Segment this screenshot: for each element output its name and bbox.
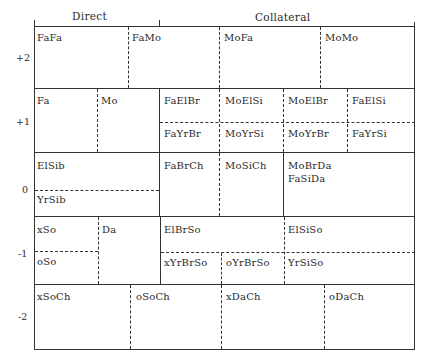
direct-collateral-tick [159,20,160,27]
kin-term-moelbr: MoElBr [288,95,328,107]
divider-dashed [221,285,222,349]
kin-term-odach: oDaCh [329,291,364,303]
frame-bottom-border [34,349,415,350]
divider-dashed [320,27,321,88]
divider-dashed [97,89,98,152]
frame-right-border [414,22,415,350]
direct-collateral-divider [159,153,160,216]
kin-term-mosich: MoSiCh [225,160,267,172]
kin-term-moyrsi: MoYrSi [225,128,264,140]
kin-term-fayrbr: FaYrBr [164,128,201,140]
kin-term-yrsiso: YrSiSo [288,257,324,269]
kin-term-famo: FaMo [132,32,161,44]
kin-term-faelsi: FaElSi [352,95,386,107]
direct-collateral-divider [160,217,161,284]
kin-term-yrsib: YrSib [37,194,66,206]
header-rule [34,26,415,27]
row-separator-plus2 [34,88,415,89]
kin-term-fasida: FaSiDa [288,173,325,185]
kin-term-xso: xSo [37,224,56,236]
divider-dashed [219,27,220,88]
kin-term-da: Da [102,224,116,236]
kin-term-elsib: ElSib [37,160,65,172]
kin-term-moelsi: MoElSi [225,95,263,107]
kin-term-oyrbrso: oYrBrSo [226,257,270,269]
generation-label-minus1: -1 [18,248,27,259]
divider-dashed [219,89,220,152]
elder-younger-divider [35,190,159,191]
kin-term-faelbr: FaElBr [164,95,200,107]
divider-solid [283,153,284,216]
kin-term-fa: Fa [37,95,50,107]
row-separator-0 [34,216,415,217]
kin-term-fabrch: FaBrCh [164,160,204,172]
kin-term-elbrso: ElBrSo [164,224,201,236]
divider-dashed [324,285,325,349]
direct-collateral-divider [159,89,160,152]
kin-term-elsiso: ElSiSo [288,224,323,236]
divider-dashed [284,217,285,284]
row-separator-minus1 [34,284,415,285]
collateral-header: Collateral [255,11,310,23]
row-separator-plus1 [34,152,415,153]
kin-term-xdach: xDaCh [226,291,261,303]
kin-term-moyrbr: MoYrBr [288,128,329,140]
kin-term-mobrda: MoBrDa [288,160,332,172]
kin-term-osoch: oSoCh [136,291,170,303]
kin-term-mo: Mo [101,95,118,107]
kin-term-fafa: FaFa [37,32,62,44]
generation-label-minus2: -2 [18,311,27,322]
generation-label-plus1: +1 [16,116,30,127]
kin-term-fayrsi: FaYrSi [352,128,387,140]
divider-dashed [347,89,348,152]
elder-younger-divider [160,122,415,123]
direct-header: Direct [72,10,107,22]
divider-dashed [98,217,99,284]
sex-of-speaker-divider [35,251,98,252]
divider-dashed [221,253,222,284]
kin-term-xyrbrso: xYrBrSo [164,257,207,269]
divider-dashed [130,285,131,349]
kin-term-oso: oSo [37,256,57,268]
kin-term-momo: MoMo [325,32,358,44]
divider-dashed [219,153,220,216]
kin-term-xsoch: xSoCh [37,291,71,303]
divider-dashed [128,27,129,88]
frame-left-border [34,20,35,350]
generation-label-plus2: +2 [16,52,30,63]
generation-label-0: 0 [22,184,28,195]
kin-term-mofa: MoFa [224,32,253,44]
divider-dashed [283,89,284,152]
elder-younger-divider [161,252,415,253]
